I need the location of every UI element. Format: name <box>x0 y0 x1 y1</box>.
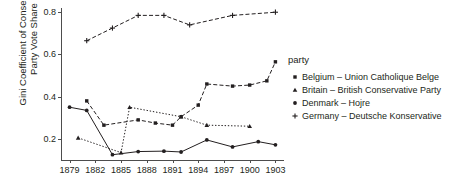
y-tick-label: 0.6 <box>43 49 56 59</box>
plot-area: 0.20.40.60.8 187918821885188818911894189… <box>61 8 284 160</box>
x-tick-mark <box>173 160 174 163</box>
y-axis-title: Gini Coefficient of Conservative Party V… <box>17 0 39 119</box>
x-tick-label: 1879 <box>60 165 80 175</box>
series-3 <box>84 10 278 44</box>
data-point <box>127 105 132 109</box>
x-tick-mark <box>198 160 199 163</box>
legend-item-3[interactable]: Germany – Deutsche Konservative <box>288 111 454 121</box>
data-point <box>171 123 174 126</box>
series-line <box>87 12 276 41</box>
legend-label: Britain – British Conservative Party <box>302 85 441 95</box>
x-tick-mark <box>70 160 71 163</box>
legend-item-0[interactable]: Belgium – Union Catholique Belge <box>288 72 454 82</box>
data-point <box>248 83 251 86</box>
x-tick-label: 1888 <box>137 165 157 175</box>
x-tick-mark <box>121 160 122 163</box>
x-tick-label: 1882 <box>85 165 105 175</box>
legend-title: party <box>288 54 454 65</box>
data-point <box>230 13 235 18</box>
series-line <box>70 107 276 155</box>
circle-marker-icon <box>288 98 302 108</box>
legend-item-2[interactable]: Denmark – Hojre <box>288 98 454 108</box>
legend: party Belgium – Union Catholique BelgeBr… <box>288 54 454 124</box>
data-point <box>154 121 157 124</box>
x-tick-label: 1894 <box>188 165 208 175</box>
x-tick-label: 1903 <box>265 165 285 175</box>
series-layer <box>61 8 284 160</box>
data-point <box>187 22 192 27</box>
data-point <box>265 79 268 82</box>
square-marker-icon <box>288 72 302 82</box>
data-point <box>197 103 200 106</box>
data-point <box>136 118 139 121</box>
data-point <box>256 140 260 144</box>
x-tick-label: 1891 <box>162 165 182 175</box>
data-point <box>205 82 208 85</box>
data-point <box>205 138 209 142</box>
x-tick-mark <box>224 160 225 163</box>
data-point <box>205 123 210 127</box>
series-line <box>78 107 250 152</box>
data-point <box>85 99 88 102</box>
chart-root: Gini Coefficient of Conservative Party V… <box>0 0 454 189</box>
y-tick-label: 0.4 <box>43 92 56 102</box>
data-point <box>84 38 89 43</box>
data-point <box>274 60 277 63</box>
y-tick-label: 0.8 <box>43 7 56 17</box>
legend-label: Germany – Deutsche Konservative <box>302 111 442 121</box>
legend-rows: Belgium – Union Catholique BelgeBritain … <box>288 72 454 121</box>
data-point <box>161 13 166 18</box>
series-2 <box>68 105 278 156</box>
x-tick-mark <box>275 160 276 163</box>
data-point <box>68 105 72 109</box>
x-tick-mark <box>250 160 251 163</box>
x-tick-mark <box>95 160 96 163</box>
data-point <box>231 84 234 87</box>
series-1 <box>76 105 252 155</box>
x-tick-mark <box>147 160 148 163</box>
data-point <box>231 145 235 149</box>
x-tick-label: 1897 <box>214 165 234 175</box>
data-point <box>111 153 115 157</box>
data-point <box>136 150 140 154</box>
legend-label: Denmark – Hojre <box>302 98 370 108</box>
data-point <box>273 10 278 15</box>
x-tick-label: 1885 <box>111 165 131 175</box>
plus-marker-icon <box>288 111 302 121</box>
data-point <box>179 150 183 154</box>
legend-item-1[interactable]: Britain – British Conservative Party <box>288 85 454 95</box>
data-point <box>162 149 166 153</box>
triangle-marker-icon <box>288 85 302 95</box>
y-tick-label: 0.2 <box>43 134 56 144</box>
data-point <box>85 108 89 112</box>
data-point <box>76 136 81 140</box>
data-point <box>274 143 278 147</box>
data-point <box>102 123 105 126</box>
x-tick-label: 1900 <box>240 165 260 175</box>
data-point <box>136 13 141 18</box>
legend-label: Belgium – Union Catholique Belge <box>302 72 439 82</box>
data-point <box>110 25 115 30</box>
